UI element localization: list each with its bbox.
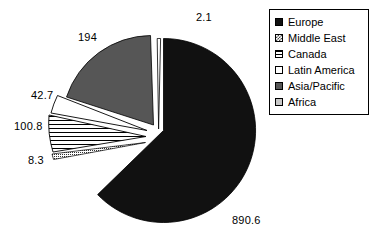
legend-swatch-latin-america-icon	[275, 66, 283, 74]
legend-label-middle-east: Middle East	[288, 32, 345, 44]
data-label-canada: 100.8	[14, 121, 43, 132]
data-label-middle-east: 42.7	[31, 90, 53, 101]
pie-chart: 194 2.1 42.7 100.8 8.3 890.6 Europe Midd…	[0, 0, 376, 246]
data-label-asia-pacific: 194	[78, 32, 97, 43]
chart-legend: Europe Middle East Canada Latin America …	[269, 9, 369, 115]
legend-swatch-africa-icon	[275, 98, 283, 106]
legend-item-asia-pacific: Asia/Pacific	[275, 78, 363, 94]
legend-swatch-middle-east-icon	[275, 34, 283, 42]
legend-label-asia-pacific: Asia/Pacific	[288, 80, 345, 92]
data-label-latin-america: 2.1	[196, 12, 212, 23]
legend-swatch-asia-pacific-icon	[275, 82, 283, 90]
legend-swatch-canada-icon	[275, 50, 283, 58]
legend-item-europe: Europe	[275, 14, 363, 30]
legend-item-africa: Africa	[275, 94, 363, 110]
pie-slice-latin-america	[157, 38, 160, 129]
legend-label-canada: Canada	[288, 48, 327, 60]
legend-label-europe: Europe	[288, 16, 323, 28]
data-label-europe: 890.6	[232, 215, 261, 226]
legend-item-middle-east: Middle East	[275, 30, 363, 46]
legend-swatch-europe-icon	[275, 18, 283, 26]
legend-item-canada: Canada	[275, 46, 363, 62]
legend-label-africa: Africa	[288, 96, 316, 108]
legend-label-latin-america: Latin America	[288, 64, 355, 76]
legend-item-latin-america: Latin America	[275, 62, 363, 78]
data-label-africa: 8.3	[28, 155, 44, 166]
